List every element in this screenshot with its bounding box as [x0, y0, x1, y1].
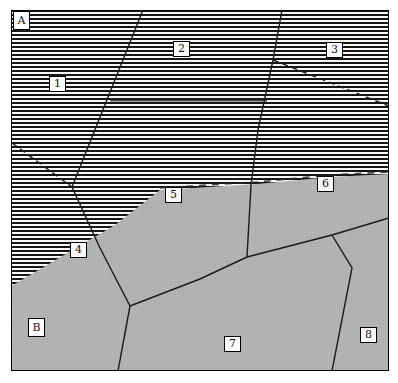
label-domain-4: 4 [70, 242, 87, 258]
label-domain-8: 8 [360, 327, 377, 343]
boundary-b-7-left [118, 306, 130, 371]
phase-interface-dashes [160, 172, 389, 188]
boundary-3-dashed [273, 60, 389, 106]
label-panel-b: B [28, 318, 45, 337]
label-domain-1: 1 [49, 76, 66, 92]
label-domain-7: 7 [224, 336, 241, 352]
micrograph-frame: A 1 2 3 4 5 6 7 8 B [11, 10, 389, 371]
boundary-6-7 [247, 218, 389, 257]
label-domain-3: 3 [326, 42, 343, 58]
figure: A 1 2 3 4 5 6 7 8 B [0, 0, 398, 383]
boundary-2-3-5-6 [247, 10, 282, 257]
label-domain-6: 6 [317, 176, 334, 192]
label-domain-5: 5 [165, 187, 182, 203]
label-panel-a: A [13, 11, 30, 30]
boundary-5-7 [130, 257, 247, 306]
boundary-1-4-dashed [12, 143, 72, 187]
boundary-7-8 [332, 235, 352, 371]
label-domain-2: 2 [173, 41, 190, 57]
